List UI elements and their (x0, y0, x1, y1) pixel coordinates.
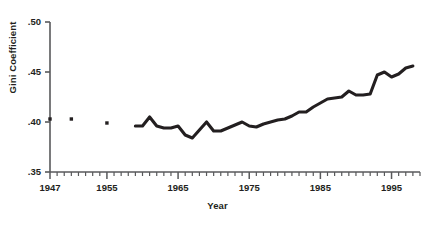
data-point-marker (70, 117, 73, 120)
x-axis-tick-label: 1985 (300, 182, 340, 193)
y-axis-title: Gini Coefficient (7, 20, 18, 96)
x-axis-tick-label: 1975 (229, 182, 269, 193)
x-axis-title: Year (0, 200, 435, 211)
y-axis-tick-label: .50 (19, 16, 41, 27)
x-axis-tick-label: 1947 (30, 182, 70, 193)
data-point-marker (105, 121, 108, 124)
gini-coefficient-chart: Gini Coefficient Year .35.40.45.50 19471… (0, 0, 435, 226)
y-axis-tick-label: .35 (19, 166, 41, 177)
data-point-marker (48, 117, 51, 120)
y-axis-tick-label: .40 (19, 116, 41, 127)
y-axis (45, 22, 50, 172)
x-axis-tick-label: 1995 (372, 182, 412, 193)
data-point-markers (48, 117, 108, 124)
y-axis-tick-label: .45 (19, 66, 41, 77)
data-series-line (135, 66, 413, 138)
x-axis-tick-label: 1965 (158, 182, 198, 193)
x-axis (50, 172, 420, 179)
x-axis-tick-label: 1955 (87, 182, 127, 193)
